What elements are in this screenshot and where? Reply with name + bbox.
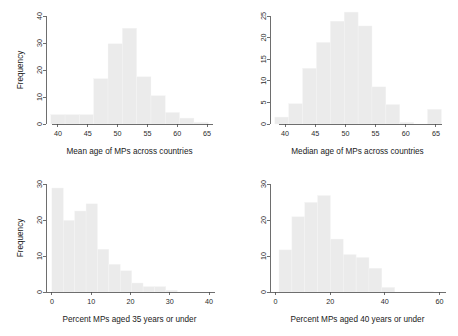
x-tick-label: 55 — [143, 129, 151, 138]
x-tick-label: 50 — [114, 129, 122, 138]
histogram-bar — [356, 257, 369, 292]
histogram-bar — [279, 250, 292, 292]
histogram-bar — [51, 115, 65, 124]
histogram-bar — [143, 287, 154, 292]
y-tick-label: 0 — [259, 122, 268, 126]
histogram-bar — [79, 115, 93, 124]
histogram-figure: 010203040404550556065Mean age of MPs acr… — [0, 0, 458, 336]
y-tick-label: 0 — [35, 122, 44, 126]
panel-pct-35-under: 0102030010203040Percent MPs aged 35 year… — [0, 168, 229, 336]
x-tick-label: 40 — [205, 297, 213, 306]
histogram-bar — [63, 220, 74, 292]
histogram-bar — [369, 268, 382, 292]
histogram-bar — [120, 271, 131, 292]
y-tick-label: 20 — [259, 34, 268, 42]
histogram-bar — [303, 68, 317, 124]
histogram-bar — [97, 249, 108, 292]
histogram-bar — [122, 28, 136, 124]
y-tick-label: 15 — [259, 55, 268, 63]
histogram-bar — [180, 118, 194, 124]
histogram-bar — [108, 44, 122, 124]
x-tick-label: 20 — [326, 297, 334, 306]
histogram-bar — [344, 12, 358, 124]
histogram-bar — [382, 287, 395, 292]
y-tick-label: 0 — [35, 290, 44, 294]
histogram-bar — [372, 87, 386, 124]
y-tick-label: 25 — [259, 12, 268, 20]
panel-mean-age: 010203040404550556065Mean age of MPs acr… — [0, 0, 229, 168]
histogram-bar — [52, 188, 63, 292]
histogram-bar — [154, 287, 165, 292]
plot-mean-age: 010203040404550556065Mean age of MPs acr… — [0, 0, 229, 168]
x-tick-label: 10 — [87, 297, 95, 306]
y-tick-label: 40 — [35, 12, 44, 20]
x-tick-label: 40 — [381, 297, 389, 306]
y-tick-label: 30 — [35, 180, 44, 188]
histogram-bar — [318, 196, 331, 292]
plot-pct-35-under: 0102030010203040Percent MPs aged 35 year… — [0, 168, 229, 336]
x-tick-label: 0 — [50, 297, 54, 306]
histogram-bar — [165, 112, 179, 124]
y-tick-label: 10 — [35, 252, 44, 260]
histogram-bar — [109, 264, 120, 292]
x-tick-label: 60 — [173, 129, 181, 138]
histogram-bar — [75, 211, 86, 292]
histogram-bar — [65, 115, 79, 124]
x-tick-label: 45 — [84, 129, 92, 138]
y-tick-label: 20 — [35, 216, 44, 224]
histogram-bar — [137, 77, 151, 124]
histogram-bar — [86, 204, 97, 292]
histogram-bar — [330, 239, 343, 292]
x-tick-label: 60 — [436, 297, 444, 306]
histogram-bar — [94, 79, 108, 124]
x-tick-label: 60 — [402, 129, 410, 138]
histogram-bar — [305, 202, 318, 292]
histogram-bar — [132, 283, 143, 292]
histogram-bar — [275, 117, 289, 124]
y-axis-title: Frequency — [16, 218, 25, 258]
y-tick-label: 0 — [259, 290, 268, 294]
plot-median-age: 0510152025404550556065Median age of MPs … — [229, 0, 458, 168]
x-tick-label: 50 — [341, 129, 349, 138]
x-axis-title: Median age of MPs across countries — [291, 147, 423, 156]
y-tick-label: 20 — [259, 216, 268, 224]
y-tick-label: 10 — [35, 93, 44, 101]
x-tick-label: 55 — [372, 129, 380, 138]
y-tick-label: 5 — [259, 100, 268, 104]
x-axis-title: Mean age of MPs across countries — [66, 147, 192, 156]
y-tick-label: 30 — [35, 39, 44, 47]
histogram-bar — [358, 26, 372, 124]
histogram-bar — [292, 217, 305, 292]
x-tick-label: 65 — [432, 129, 440, 138]
histogram-bar — [386, 105, 400, 124]
y-tick-label: 30 — [259, 180, 268, 188]
x-tick-label: 20 — [127, 297, 135, 306]
histogram-bar — [289, 104, 303, 124]
x-tick-label: 0 — [274, 297, 278, 306]
bars-group — [279, 196, 433, 292]
x-tick-label: 40 — [281, 129, 289, 138]
x-axis-title: Percent MPs aged 40 years or under — [291, 315, 425, 324]
plot-pct-40-under: 01020300204060Percent MPs aged 40 years … — [229, 168, 458, 336]
x-axis-title: Percent MPs aged 35 years or under — [63, 315, 197, 324]
y-axis-title: Frequency — [16, 50, 25, 90]
histogram-bar — [151, 96, 165, 124]
panel-pct-40-under: 01020300204060Percent MPs aged 40 years … — [229, 168, 458, 336]
panel-median-age: 0510152025404550556065Median age of MPs … — [229, 0, 458, 168]
bars-group — [52, 188, 177, 292]
y-tick-label: 10 — [259, 77, 268, 85]
histogram-bar — [428, 109, 442, 124]
y-tick-label: 20 — [35, 66, 44, 74]
x-tick-label: 30 — [166, 297, 174, 306]
histogram-bar — [316, 42, 330, 124]
bars-group — [51, 28, 208, 124]
x-tick-label: 40 — [54, 129, 62, 138]
histogram-bar — [330, 21, 344, 124]
histogram-bar — [343, 255, 356, 292]
x-tick-label: 65 — [203, 129, 211, 138]
x-tick-label: 45 — [311, 129, 319, 138]
bars-group — [275, 12, 442, 124]
y-tick-label: 10 — [259, 252, 268, 260]
